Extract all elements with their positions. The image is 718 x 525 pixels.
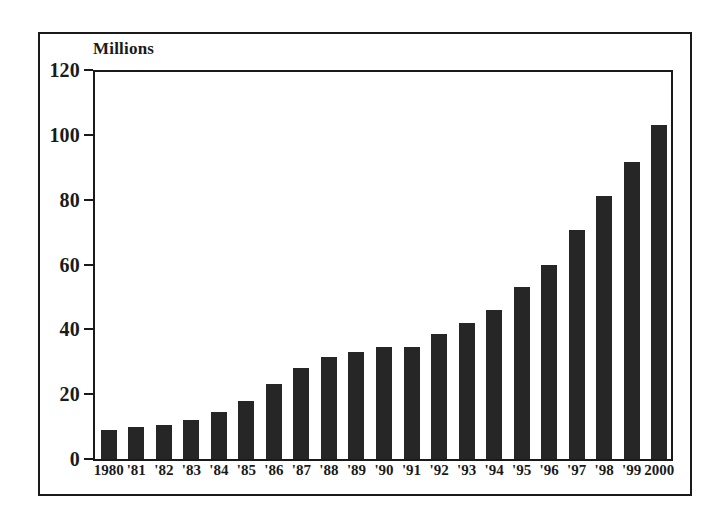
bar[interactable] (624, 162, 640, 459)
bar-slot (453, 70, 481, 459)
x-tick-label: '86 (264, 463, 283, 478)
bar[interactable] (128, 427, 144, 459)
bar-slot (645, 70, 673, 459)
bar[interactable] (101, 430, 117, 459)
x-tick-label: '93 (457, 463, 476, 478)
x-tick-label: '81 (127, 463, 146, 478)
y-tick-label: 80 (60, 190, 80, 210)
axis-unit-label: Millions (93, 40, 154, 57)
y-tick-label: 0 (70, 449, 80, 469)
y-tick-mark (84, 393, 93, 395)
x-tick-label: '89 (347, 463, 366, 478)
bar[interactable] (459, 323, 475, 459)
bar[interactable] (514, 287, 530, 459)
bar[interactable] (266, 384, 282, 459)
x-tick-label: 2000 (644, 463, 674, 478)
x-tick-label: '87 (292, 463, 311, 478)
x-tick-label: '95 (512, 463, 531, 478)
bar-slot (315, 70, 343, 459)
y-tick-label: 100 (49, 125, 80, 145)
y-tick-label: 40 (60, 319, 80, 339)
x-axis-labels: 1980'81'82'83'84'85'86'87'88'89'90'91'92… (95, 463, 673, 487)
bar-slot (370, 70, 398, 459)
bar-slot (480, 70, 508, 459)
x-tick-label: '91 (402, 463, 421, 478)
bar[interactable] (486, 310, 502, 459)
bar[interactable] (238, 401, 254, 459)
chart-figure: Millions 020406080100120 1980'81'82'83'8… (0, 0, 718, 525)
bar-slot (618, 70, 646, 459)
bar-slot (508, 70, 536, 459)
bar-series (95, 70, 673, 459)
bar-slot (535, 70, 563, 459)
bar[interactable] (348, 352, 364, 459)
bar-slot (563, 70, 591, 459)
y-tick-mark (84, 199, 93, 201)
y-tick-mark (84, 69, 93, 71)
bar-slot (123, 70, 151, 459)
x-tick-label: '98 (595, 463, 614, 478)
x-tick-label: '84 (209, 463, 228, 478)
bar[interactable] (541, 265, 557, 460)
bar-slot (95, 70, 123, 459)
bar[interactable] (376, 347, 392, 459)
x-axis-baseline (93, 459, 673, 461)
bar-slot (260, 70, 288, 459)
y-tick-label: 20 (60, 384, 80, 404)
bar-slot (150, 70, 178, 459)
y-tick-mark (84, 328, 93, 330)
x-tick-label: '90 (374, 463, 393, 478)
bar[interactable] (211, 412, 227, 459)
bar[interactable] (293, 368, 309, 459)
bar-slot (205, 70, 233, 459)
x-tick-label: '96 (540, 463, 559, 478)
y-tick-mark (84, 458, 93, 460)
bar[interactable] (321, 357, 337, 459)
bar-slot (233, 70, 261, 459)
y-tick-mark (84, 134, 93, 136)
x-tick-label: '82 (154, 463, 173, 478)
x-tick-label: '97 (567, 463, 586, 478)
x-tick-label: '92 (429, 463, 448, 478)
bar-slot (343, 70, 371, 459)
bar[interactable] (569, 230, 585, 459)
bar[interactable] (651, 125, 667, 459)
x-tick-label: '83 (182, 463, 201, 478)
y-tick-label: 60 (60, 255, 80, 275)
bar[interactable] (431, 334, 447, 459)
bar[interactable] (404, 347, 420, 459)
x-tick-label: '88 (319, 463, 338, 478)
x-tick-label: '94 (485, 463, 504, 478)
plot-area: 020406080100120 (93, 70, 673, 459)
x-tick-label: 1980 (94, 463, 124, 478)
bar[interactable] (156, 425, 172, 459)
x-tick-label: '85 (237, 463, 256, 478)
bar-slot (590, 70, 618, 459)
bar-slot (178, 70, 206, 459)
bar-slot (398, 70, 426, 459)
bar[interactable] (596, 196, 612, 459)
y-tick-label: 120 (49, 60, 80, 80)
bar[interactable] (183, 420, 199, 459)
bar-slot (425, 70, 453, 459)
x-tick-label: '99 (622, 463, 641, 478)
bar-slot (288, 70, 316, 459)
y-tick-mark (84, 264, 93, 266)
